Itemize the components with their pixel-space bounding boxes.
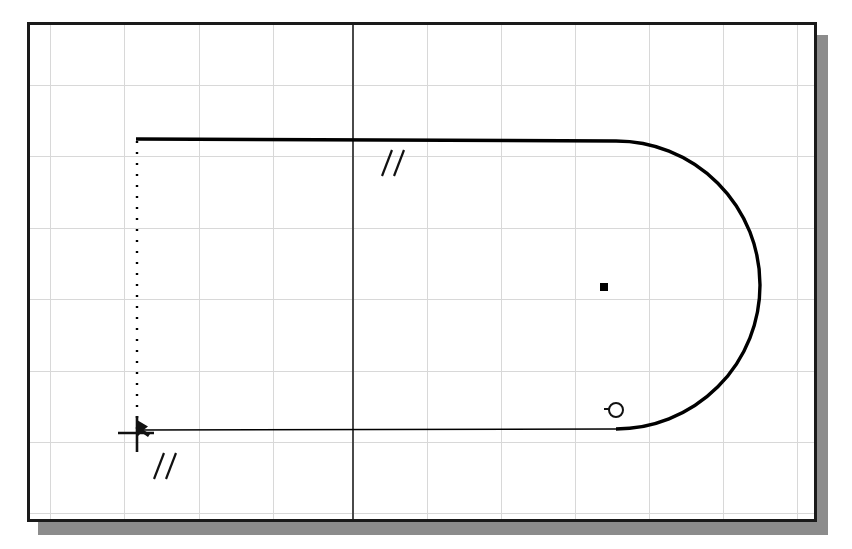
drawing-canvas[interactable]	[0, 0, 852, 549]
top-horizontal-line[interactable]	[136, 139, 616, 141]
bottom-horizontal-line[interactable]	[136, 429, 616, 430]
cad-application-root: // // CAD Sketch Viewport Slot / D-shape…	[0, 0, 852, 549]
point-marker-center[interactable]	[600, 283, 608, 291]
viewport-background	[27, 22, 817, 522]
